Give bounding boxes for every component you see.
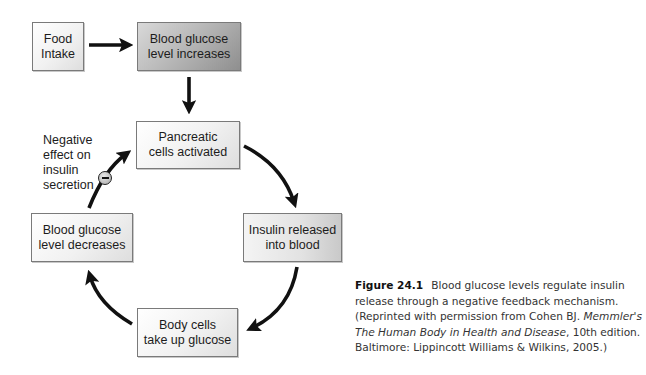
minus-icon xyxy=(98,171,112,185)
box-glucose-decreases: Blood glucose level decreases xyxy=(31,213,133,262)
box-pancreatic-cells-label: Pancreatic cells activated xyxy=(149,130,228,160)
negative-effect-label: Negative effect on insulin secretion xyxy=(43,133,94,193)
box-glucose-increases-label: Blood glucose level increases xyxy=(148,32,231,62)
box-food-intake-label: Food Intake xyxy=(41,32,75,62)
box-pancreatic-cells: Pancreatic cells activated xyxy=(136,121,240,169)
box-cells-uptake-label: Body cells take up glucose xyxy=(144,318,232,348)
arrow-insulin-to-cells xyxy=(252,267,297,328)
arrow-cells-to-decrease xyxy=(90,276,132,324)
box-insulin-released-label: Insulin released into blood xyxy=(249,223,337,253)
box-cells-uptake: Body cells take up glucose xyxy=(137,308,238,357)
figure-caption: Figure 24.1Blood glucose levels regulate… xyxy=(355,278,645,356)
box-insulin-released: Insulin released into blood xyxy=(243,213,342,262)
box-glucose-decreases-label: Blood glucose level decreases xyxy=(39,223,126,253)
box-food-intake: Food Intake xyxy=(32,22,84,71)
box-glucose-increases: Blood glucose level increases xyxy=(137,22,241,71)
arrow-pancreatic-to-insulin xyxy=(244,146,294,202)
figure-number: Figure 24.1 xyxy=(355,279,423,291)
